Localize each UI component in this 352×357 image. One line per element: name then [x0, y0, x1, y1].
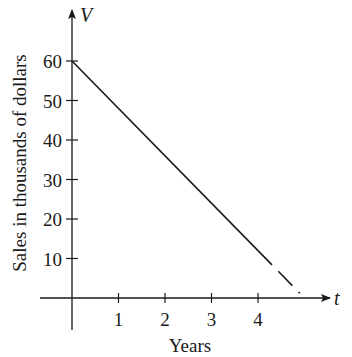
- y-axis-title: Sales in thousands of dollars: [9, 54, 30, 271]
- y-tick-label: 30: [43, 170, 62, 191]
- y-axis-variable-label: V: [80, 4, 95, 26]
- x-axis-variable-label: t: [334, 287, 340, 309]
- axes: [40, 10, 330, 330]
- y-tick-label: 50: [43, 91, 62, 112]
- sales-line: [72, 61, 258, 251]
- data-series: [72, 61, 300, 293]
- x-tick-label: 3: [207, 309, 217, 330]
- y-tick-label: 40: [43, 130, 62, 151]
- sales-line-chart: 1234102030405060 V t Years Sales in thou…: [0, 0, 352, 357]
- x-tick-label: 1: [114, 309, 124, 330]
- y-tick-label: 60: [43, 51, 62, 72]
- x-tick-label: 4: [253, 309, 263, 330]
- y-tick-label: 10: [43, 249, 62, 270]
- axis-ticks: 1234102030405060: [43, 51, 263, 330]
- x-axis-title: Years: [169, 335, 211, 356]
- extrapolated-dashed-line: [258, 251, 300, 294]
- y-tick-label: 20: [43, 209, 62, 230]
- x-tick-label: 2: [160, 309, 170, 330]
